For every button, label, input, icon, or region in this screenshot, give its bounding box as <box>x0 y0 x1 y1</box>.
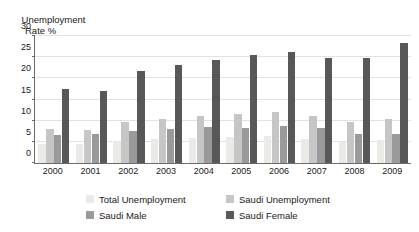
year-group-2009 <box>373 36 411 163</box>
year-group-2003 <box>148 36 186 163</box>
legend-swatch-icon <box>86 195 94 203</box>
bar <box>377 140 384 163</box>
bar <box>76 144 83 163</box>
legend-label: Saudi Male <box>99 210 147 221</box>
bar <box>355 134 362 163</box>
x-axis-labels: 2000200120022003200420052006200720082009 <box>34 166 411 176</box>
legend-label: Saudi Female <box>239 210 298 221</box>
bar <box>400 43 407 163</box>
x-axis-tick-label: 2007 <box>298 166 336 176</box>
bar <box>392 134 399 163</box>
legend-item-3: Saudi Female <box>226 210 366 221</box>
y-axis-tick-label: 15 <box>21 85 31 95</box>
y-axis-tick-label: 20 <box>21 63 31 73</box>
bar <box>339 142 346 163</box>
x-axis-tick-label: 2005 <box>223 166 261 176</box>
bar <box>54 135 61 163</box>
bar <box>317 128 324 163</box>
unemployment-rate-bar-chart: UnemploymentRate % 051015202530 20002001… <box>0 0 419 232</box>
x-axis-tick-label: 2008 <box>336 166 374 176</box>
bar <box>113 141 120 163</box>
bar <box>121 122 128 163</box>
legend-item-0: Total Unemployment <box>86 194 226 205</box>
bar <box>129 131 136 163</box>
bar <box>264 136 271 163</box>
legend-item-2: Saudi Male <box>86 210 226 221</box>
year-group-2001 <box>73 36 111 163</box>
bars-layer <box>35 36 411 163</box>
year-group-2000 <box>35 36 73 163</box>
y-axis-tick-label: 30 <box>21 21 31 31</box>
bar <box>226 137 233 163</box>
y-axis-tick-label: 10 <box>21 106 31 116</box>
bar <box>363 58 370 163</box>
y-axis-title-line1: Unemployment <box>22 14 86 25</box>
bar <box>288 52 295 163</box>
bar <box>212 60 219 163</box>
bar <box>92 134 99 163</box>
bar <box>100 91 107 163</box>
bar <box>189 138 196 163</box>
x-axis-tick-label: 2001 <box>72 166 110 176</box>
bar <box>197 116 204 163</box>
bar <box>385 119 392 163</box>
year-group-2005 <box>223 36 261 163</box>
year-group-2004 <box>185 36 223 163</box>
bar <box>151 139 158 163</box>
x-axis-tick-label: 2004 <box>185 166 223 176</box>
plot-area: 051015202530 <box>34 36 411 164</box>
bar <box>204 127 211 163</box>
bar <box>175 65 182 163</box>
bar <box>46 129 53 163</box>
bar <box>325 58 332 163</box>
bar <box>280 126 287 163</box>
bar <box>347 122 354 163</box>
x-axis-tick-label: 2009 <box>373 166 411 176</box>
bar <box>167 129 174 163</box>
bar <box>137 71 144 163</box>
year-group-2008 <box>336 36 374 163</box>
y-axis-tick-label: 25 <box>21 42 31 52</box>
bar <box>272 112 279 163</box>
plot-frame: 051015202530 <box>34 36 411 164</box>
bar <box>159 119 166 163</box>
legend-swatch-icon <box>226 211 234 219</box>
legend-label: Saudi Unemployment <box>239 194 330 205</box>
year-group-2006 <box>261 36 299 163</box>
x-axis-tick-label: 2003 <box>147 166 185 176</box>
bar <box>250 55 257 163</box>
legend-label: Total Unemployment <box>99 194 186 205</box>
bar <box>62 89 69 163</box>
y-axis-tick-label: 0 <box>26 148 31 158</box>
bar <box>242 128 249 163</box>
bar <box>309 116 316 163</box>
y-axis-tick-label: 5 <box>26 127 31 137</box>
x-axis-tick-label: 2000 <box>34 166 72 176</box>
bar <box>84 130 91 163</box>
legend-swatch-icon <box>226 195 234 203</box>
legend-item-1: Saudi Unemployment <box>226 194 366 205</box>
year-group-2002 <box>110 36 148 163</box>
bar <box>301 139 308 163</box>
year-group-2007 <box>298 36 336 163</box>
legend-swatch-icon <box>86 211 94 219</box>
x-axis-tick-label: 2006 <box>260 166 298 176</box>
bar <box>38 144 45 163</box>
x-axis-tick-label: 2002 <box>109 166 147 176</box>
chart-legend: Total UnemploymentSaudi UnemploymentSaud… <box>86 191 356 223</box>
bar <box>234 114 241 163</box>
